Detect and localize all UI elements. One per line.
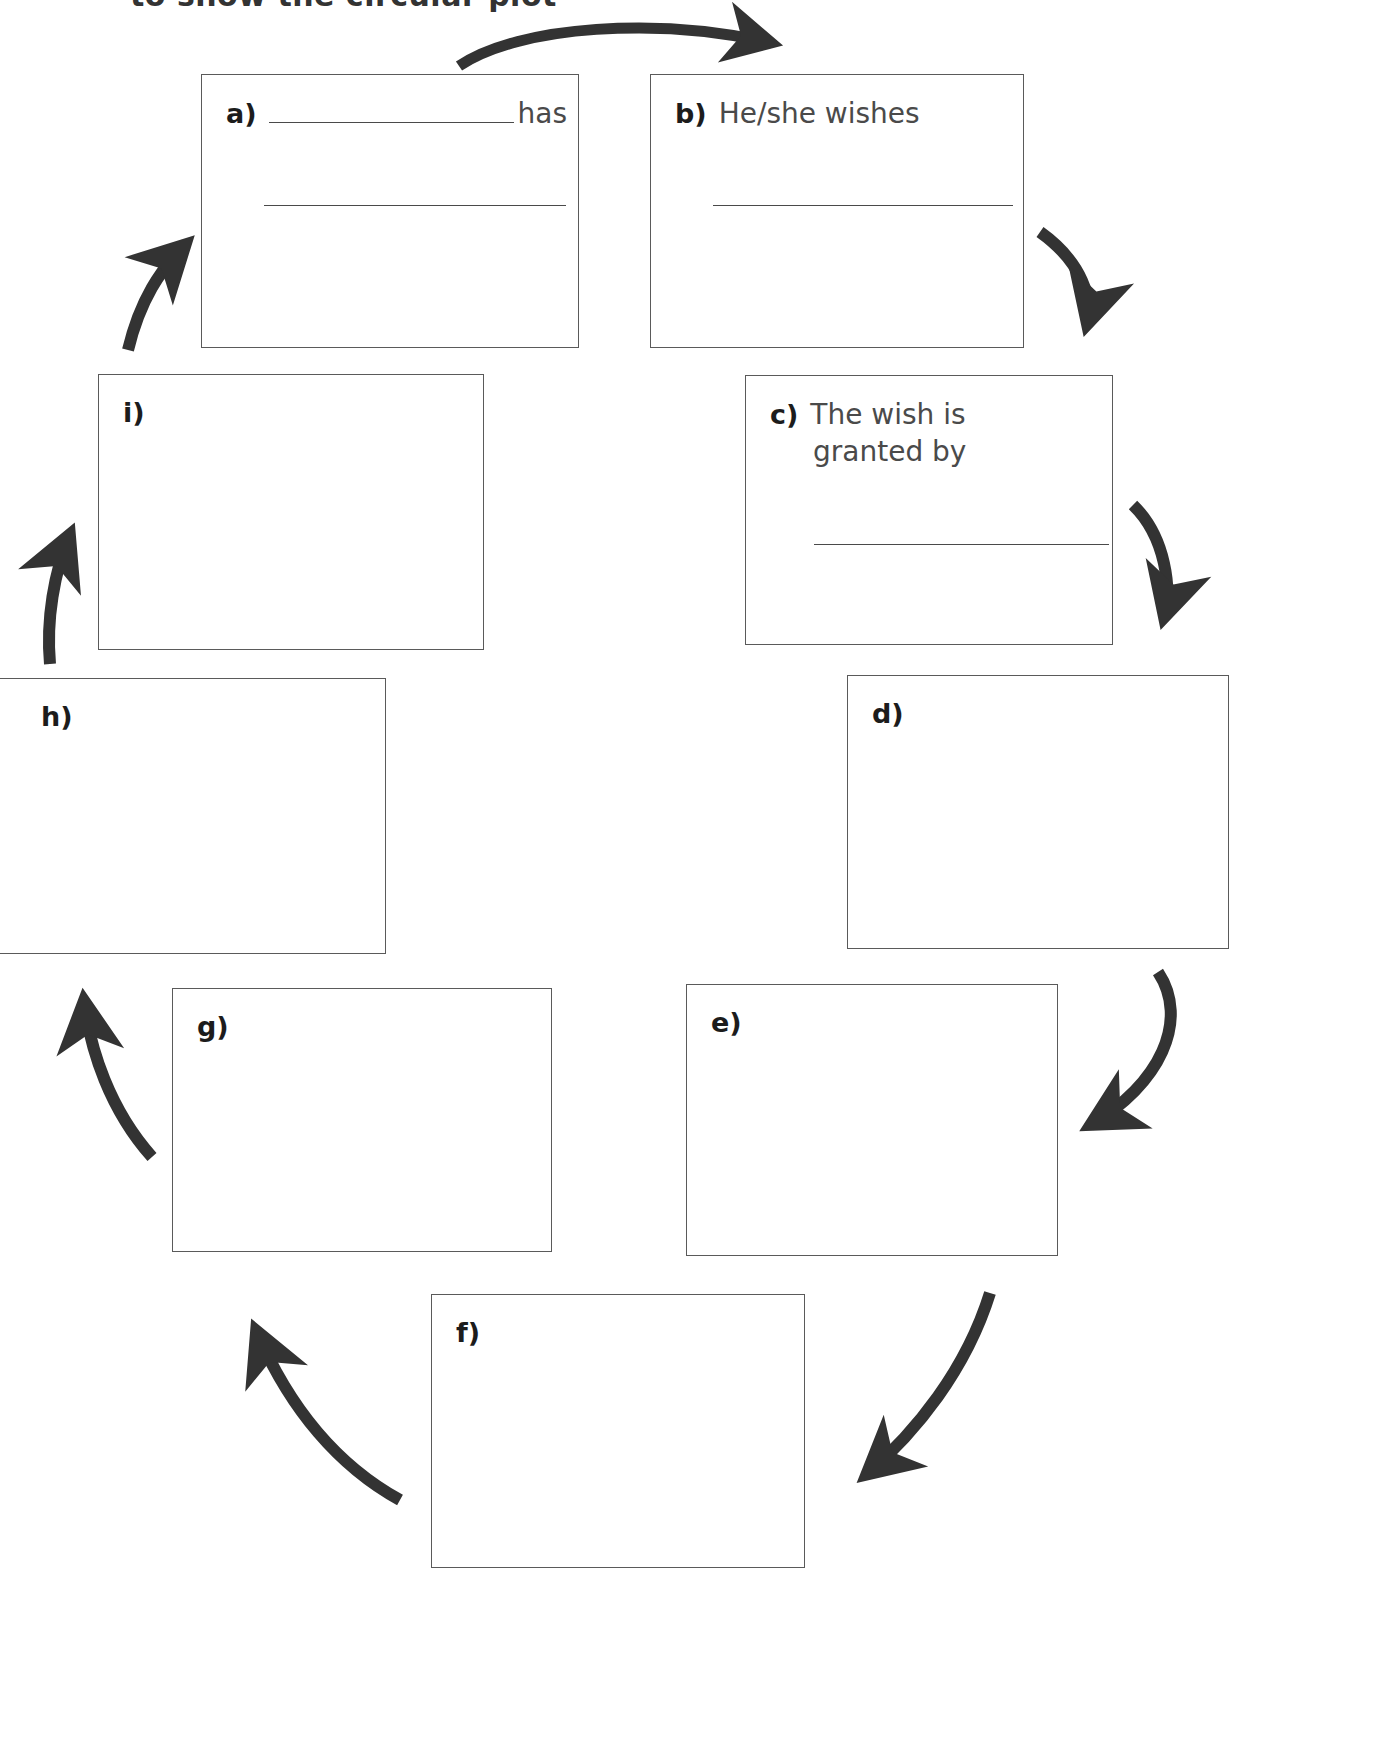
box-f-first-line: f) [456, 1317, 780, 1348]
arrow-i-to-a [128, 244, 186, 350]
box-h-first-line: h) [41, 701, 361, 732]
worksheet-page: to show the circular plot a) [0, 0, 1381, 1751]
box-d-first-line: d) [872, 698, 1204, 729]
box-b-answer-rule-1[interactable] [713, 205, 1013, 206]
cycle-box-f[interactable]: f) [431, 1294, 805, 1568]
box-a-trailing-word: has [518, 97, 568, 130]
box-b-prompt: He/she wishes [719, 97, 920, 130]
box-a-answer-rule-2[interactable] [264, 205, 566, 206]
arrow-e-to-f [866, 1293, 990, 1475]
box-c-first-line: c) The wish is [770, 398, 1088, 431]
cycle-box-g[interactable]: g) [172, 988, 552, 1252]
box-i-first-line: i) [123, 397, 459, 428]
box-c-prompt-line2: granted by [813, 435, 1088, 468]
box-g-first-line: g) [197, 1011, 527, 1042]
box-a-letter: a) [226, 98, 257, 129]
box-b-letter: b) [675, 98, 707, 129]
cycle-box-d[interactable]: d) [847, 675, 1229, 949]
box-h-letter: h) [41, 701, 73, 732]
box-b-first-line: b) He/she wishes [675, 97, 999, 130]
page-heading-text: to show the circular plot [130, 0, 557, 13]
box-e-letter: e) [711, 1007, 742, 1038]
arrow-c-to-d [1133, 505, 1167, 618]
cycle-box-e[interactable]: e) [686, 984, 1058, 1256]
box-d-letter: d) [872, 698, 904, 729]
box-c-prompt: The wish is [810, 398, 965, 431]
cycle-box-i[interactable]: i) [98, 374, 484, 650]
box-e-first-line: e) [711, 1007, 1033, 1038]
arrow-f-to-g [256, 1330, 400, 1500]
arrow-a-to-b [459, 28, 772, 66]
cycle-box-b[interactable]: b) He/she wishes [650, 74, 1024, 348]
box-i-letter: i) [123, 397, 145, 428]
arrow-b-to-c [1040, 232, 1089, 325]
arrow-h-to-i [49, 534, 70, 664]
arrow-d-to-e [1090, 972, 1171, 1125]
box-a-first-line: a) has [226, 97, 554, 130]
box-c-letter: c) [770, 399, 798, 430]
box-c-answer-rule-1[interactable] [814, 544, 1109, 545]
box-a-inline-answer-rule[interactable] [269, 102, 514, 123]
cycle-box-c[interactable]: c) The wish is granted by [745, 375, 1113, 645]
page-heading-clipped: to show the circular plot [0, 0, 1381, 16]
cycle-box-h[interactable]: h) [0, 678, 386, 954]
box-f-letter: f) [456, 1317, 480, 1348]
arrow-g-to-h [84, 1000, 152, 1157]
cycle-box-a[interactable]: a) has [201, 74, 579, 348]
box-g-letter: g) [197, 1011, 229, 1042]
